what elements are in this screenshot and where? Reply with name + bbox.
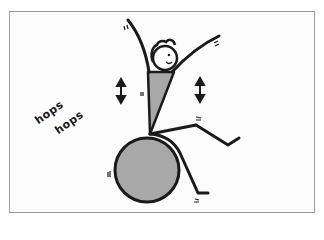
torso [148,72,174,134]
head [153,46,177,70]
up-down-arrow-right-icon [196,78,204,102]
up-down-arrow-left-icon [117,79,125,103]
exercise-ball [115,138,179,202]
eye [168,54,171,57]
left-arm [128,20,149,72]
right-arm [172,36,219,72]
